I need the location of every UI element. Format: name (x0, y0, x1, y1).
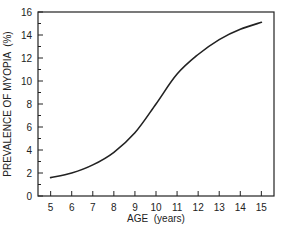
x-axis-title: AGE (years) (127, 213, 185, 224)
x-tick-label: 10 (150, 202, 162, 213)
y-tick-label: 2 (26, 168, 32, 179)
x-tick-label: 15 (256, 202, 268, 213)
x-tick-label: 8 (111, 202, 117, 213)
y-tick-label: 8 (26, 99, 32, 110)
prevalence-line (51, 22, 262, 177)
x-tick-label: 6 (69, 202, 75, 213)
x-tick-label: 7 (90, 202, 96, 213)
x-tick-label: 14 (235, 202, 247, 213)
myopia-prevalence-chart: 56789101112131415 0246810121416 AGE (yea… (0, 0, 283, 234)
y-tick-label: 0 (26, 191, 32, 202)
y-tick-label: 4 (26, 145, 32, 156)
y-tick-label: 16 (21, 7, 33, 18)
y-axis-ticks: 0246810121416 (21, 7, 43, 202)
x-tick-label: 12 (193, 202, 205, 213)
y-tick-label: 12 (21, 53, 33, 64)
y-axis-title: PREVALENCE OF MYOPIA (%) (2, 31, 13, 176)
x-tick-label: 9 (132, 202, 138, 213)
x-axis-ticks: 56789101112131415 (48, 191, 267, 213)
x-tick-label: 11 (172, 202, 183, 213)
y-tick-label: 10 (21, 76, 33, 87)
y-tick-label: 6 (26, 122, 32, 133)
x-tick-label: 13 (214, 202, 226, 213)
x-tick-label: 5 (48, 202, 54, 213)
y-tick-label: 14 (21, 30, 33, 41)
